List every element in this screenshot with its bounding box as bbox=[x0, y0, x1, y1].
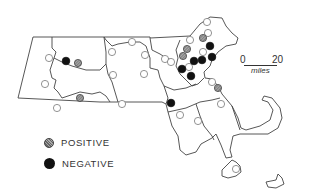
negative-site-marker bbox=[178, 65, 186, 73]
open-site-marker bbox=[199, 48, 206, 55]
open-site-marker bbox=[167, 58, 174, 65]
open-site-marker bbox=[128, 38, 135, 45]
negative-site-marker bbox=[167, 99, 175, 107]
open-site-marker bbox=[140, 70, 147, 77]
negative-site-marker bbox=[206, 42, 214, 50]
positive-site-marker bbox=[76, 94, 83, 101]
positive-site-marker bbox=[199, 34, 206, 41]
open-site-marker bbox=[208, 78, 215, 85]
open-site-marker bbox=[141, 51, 148, 58]
legend-label-negative: NEGATIVE bbox=[62, 158, 114, 169]
open-site-marker bbox=[53, 104, 60, 111]
negative-site-marker bbox=[190, 57, 198, 65]
open-site-marker bbox=[232, 165, 239, 172]
legend-item-positive: POSITIVE bbox=[44, 137, 110, 148]
legend-item-negative: NEGATIVE bbox=[44, 158, 114, 169]
positive-site-marker bbox=[74, 59, 81, 66]
positive-site-marker bbox=[179, 52, 186, 59]
open-site-marker bbox=[217, 100, 224, 107]
negative-site-marker bbox=[187, 72, 195, 80]
open-site-marker bbox=[203, 18, 210, 25]
open-site-marker bbox=[176, 111, 183, 118]
open-site-marker bbox=[185, 63, 192, 70]
scale-start: 0 bbox=[240, 54, 246, 65]
positive-site-marker bbox=[183, 45, 190, 52]
sample-sites bbox=[41, 18, 239, 172]
scale-bar: 0 20 miles bbox=[238, 54, 288, 82]
open-site-marker bbox=[109, 71, 116, 78]
legend-label-positive: POSITIVE bbox=[61, 137, 110, 148]
open-site-marker bbox=[194, 117, 201, 124]
islands bbox=[222, 160, 284, 188]
negative-site-marker bbox=[198, 56, 206, 64]
scale-end: 20 bbox=[272, 54, 283, 65]
open-site-marker bbox=[108, 48, 115, 55]
open-site-marker bbox=[186, 36, 193, 43]
negative-site-marker bbox=[62, 57, 70, 65]
negative-dot-icon bbox=[44, 158, 55, 169]
scale-unit: miles bbox=[251, 66, 270, 75]
positive-dot-icon bbox=[44, 138, 54, 148]
open-site-marker bbox=[41, 80, 48, 87]
negative-site-marker bbox=[208, 53, 216, 61]
open-site-marker bbox=[118, 100, 125, 107]
positive-site-marker bbox=[214, 84, 221, 91]
open-site-marker bbox=[45, 54, 52, 61]
